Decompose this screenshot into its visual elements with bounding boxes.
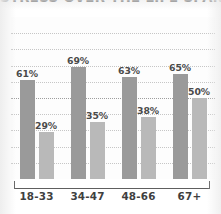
bar [122, 77, 137, 179]
chart-screenshot: STRESS OVER THE LIFE SPAN 61%29%69%35%63… [0, 0, 221, 214]
bar [71, 67, 86, 179]
bar-value-label: 61% [14, 68, 41, 79]
bar [39, 132, 54, 179]
x-axis-tick-labels: 18-3334-4748-6667+ [11, 190, 215, 208]
x-axis-tick-label: 48-66 [113, 190, 164, 202]
x-axis-tick-label: 34-47 [62, 190, 113, 202]
bar-value-label: 35% [84, 110, 111, 121]
bar-value-label: 65% [167, 62, 194, 73]
bar-value-label: 69% [65, 55, 92, 66]
bar-value-label: 29% [33, 120, 60, 131]
bar [90, 122, 105, 179]
bar-value-label: 50% [186, 86, 213, 97]
x-axis [14, 181, 210, 189]
x-axis-tick-label: 18-33 [11, 190, 62, 202]
bar-value-label: 38% [135, 105, 162, 116]
bar [141, 117, 156, 179]
bar-series-container: 61%29%69%35%63%38%65%50% [11, 17, 215, 179]
bar-value-label: 63% [116, 65, 143, 76]
page-title: STRESS OVER THE LIFE SPAN [0, 0, 221, 7]
x-axis-tick-label: 67+ [164, 190, 215, 202]
bar [192, 98, 207, 179]
